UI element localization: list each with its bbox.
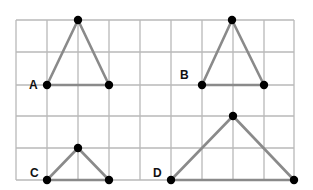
vertex-dot xyxy=(43,81,51,89)
triangle-label: B xyxy=(180,68,189,82)
triangles: ABCD xyxy=(29,16,298,184)
vertex-dot xyxy=(74,16,82,24)
vertex-dot xyxy=(260,81,268,89)
vertex-dot xyxy=(198,81,206,89)
grid xyxy=(16,20,294,180)
triangle-c: C xyxy=(30,144,113,184)
vertex-dot xyxy=(105,176,113,184)
triangle-label: C xyxy=(30,166,39,180)
triangle-label: A xyxy=(29,78,38,92)
vertex-dot xyxy=(290,176,298,184)
triangle-grid-diagram: ABCD xyxy=(0,0,313,190)
vertex-dot xyxy=(105,81,113,89)
vertex-dot xyxy=(229,112,237,120)
vertex-dot xyxy=(74,144,82,152)
vertex-dot xyxy=(228,16,236,24)
vertex-dot xyxy=(167,176,175,184)
vertex-dot xyxy=(43,176,51,184)
triangle-a: A xyxy=(29,16,113,92)
triangle-label: D xyxy=(153,166,162,180)
